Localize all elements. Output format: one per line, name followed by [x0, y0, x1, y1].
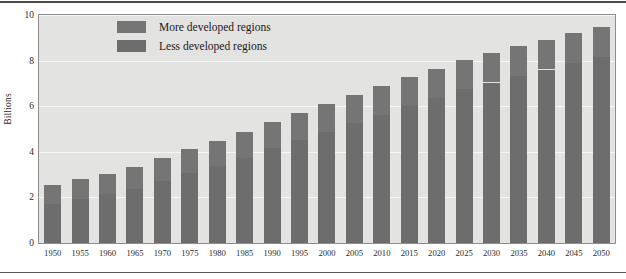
bar-segment-more-developed — [401, 77, 418, 106]
x-tick-label-1955: 1955 — [66, 248, 93, 259]
bar-segment-less-developed — [318, 132, 335, 243]
bar-segment-less-developed — [510, 76, 527, 243]
chart-figure: 0246810 Billions 19501955196019651970197… — [0, 0, 626, 279]
bar-segment-more-developed — [72, 179, 89, 199]
y-tick-label: 2 — [0, 193, 34, 202]
bar-segment-less-developed — [291, 140, 308, 243]
bar-2020 — [428, 69, 445, 243]
bar-segment-more-developed — [44, 185, 61, 203]
y-tick-label: 0 — [0, 239, 34, 248]
bar-segment-more-developed — [373, 86, 390, 114]
x-tick-label-2040: 2040 — [533, 248, 560, 259]
x-tick-label-2020: 2020 — [423, 248, 450, 259]
bar-segment-less-developed — [428, 98, 445, 243]
bar-2050 — [593, 27, 610, 243]
bar-segment-less-developed — [44, 204, 61, 243]
bar-1990 — [264, 122, 281, 243]
bar-segment-less-developed — [565, 63, 582, 243]
x-tick-label-2025: 2025 — [450, 248, 477, 259]
bar-segment-more-developed — [126, 167, 143, 189]
legend-item-less-developed: Less developed regions — [117, 37, 347, 54]
bar-segment-less-developed — [483, 83, 500, 244]
bar-1960 — [99, 174, 116, 243]
bar-segment-less-developed — [538, 70, 555, 244]
y-axis-title: Billions — [3, 79, 13, 139]
legend-item-label: More developed regions — [159, 21, 271, 33]
x-tick-label-2045: 2045 — [560, 248, 587, 259]
legend-swatch-icon — [117, 21, 146, 33]
y-tick-label: 10 — [0, 11, 34, 20]
bar-2015 — [401, 77, 418, 243]
bar-2010 — [373, 86, 390, 243]
x-tick-label-1980: 1980 — [204, 248, 231, 259]
legend-item-label: Less developed regions — [159, 40, 267, 52]
x-tick-label-2050: 2050 — [588, 248, 615, 259]
y-tick-label: 8 — [0, 56, 34, 65]
bar-segment-more-developed — [593, 27, 610, 57]
bar-segment-more-developed — [236, 132, 253, 157]
x-tick-label-2000: 2000 — [313, 248, 340, 259]
bar-segment-less-developed — [456, 89, 473, 243]
x-tick-label-1970: 1970 — [149, 248, 176, 259]
x-tick-label-1950: 1950 — [39, 248, 66, 259]
x-tick-label-2005: 2005 — [341, 248, 368, 259]
x-tick-label-1960: 1960 — [94, 248, 121, 259]
bar-segment-less-developed — [593, 57, 610, 243]
bar-segment-more-developed — [291, 113, 308, 140]
gridline — [39, 15, 615, 16]
bar-segment-more-developed — [456, 60, 473, 89]
bar-segment-less-developed — [99, 194, 116, 243]
bar-1980 — [209, 141, 226, 243]
bar-segment-less-developed — [373, 115, 390, 243]
bar-segment-less-developed — [346, 123, 363, 243]
bar-1970 — [154, 158, 171, 243]
gridline — [39, 61, 615, 62]
x-tick-label-1965: 1965 — [121, 248, 148, 259]
bar-2040 — [538, 40, 555, 243]
x-tick-label-2015: 2015 — [396, 248, 423, 259]
bottom-divider-rule — [0, 272, 626, 273]
bar-1975 — [181, 149, 198, 243]
bar-segment-more-developed — [346, 95, 363, 123]
y-tick-label: 4 — [0, 147, 34, 156]
bar-2045 — [565, 33, 582, 243]
bar-segment-more-developed — [154, 158, 171, 181]
bar-segment-more-developed — [264, 122, 281, 148]
x-axis: 1950195519601965197019751980198519901995… — [38, 248, 616, 262]
bar-segment-less-developed — [236, 158, 253, 244]
bar-segment-less-developed — [72, 199, 89, 243]
x-tick-label-1975: 1975 — [176, 248, 203, 259]
bar-segment-less-developed — [209, 166, 226, 243]
bar-segment-less-developed — [181, 173, 198, 243]
bar-segment-less-developed — [154, 181, 171, 243]
bar-segment-more-developed — [565, 33, 582, 63]
bar-2000 — [318, 104, 335, 243]
x-tick-label-1990: 1990 — [258, 248, 285, 259]
bar-2030 — [483, 53, 500, 243]
bar-1985 — [236, 132, 253, 243]
bar-segment-less-developed — [401, 106, 418, 243]
bar-segment-more-developed — [181, 149, 198, 173]
bar-2025 — [456, 60, 473, 243]
bar-segment-more-developed — [538, 40, 555, 70]
x-tick-label-1995: 1995 — [286, 248, 313, 259]
bar-segment-more-developed — [510, 46, 527, 76]
bar-1995 — [291, 113, 308, 243]
legend-swatch-icon — [117, 40, 146, 52]
bar-segment-less-developed — [264, 148, 281, 243]
x-tick-label-2030: 2030 — [478, 248, 505, 259]
legend-item-more-developed: More developed regions — [117, 18, 347, 35]
x-tick-label-1985: 1985 — [231, 248, 258, 259]
bar-1965 — [126, 167, 143, 243]
bar-segment-less-developed — [126, 189, 143, 243]
bar-segment-more-developed — [428, 69, 445, 98]
x-tick-label-2035: 2035 — [505, 248, 532, 259]
bar-segment-more-developed — [318, 104, 335, 131]
bar-segment-more-developed — [99, 174, 116, 195]
chart-legend: More developed regionsLess developed reg… — [117, 18, 347, 56]
bar-2035 — [510, 46, 527, 243]
bar-segment-more-developed — [483, 53, 500, 82]
bar-1950 — [44, 185, 61, 243]
bar-1955 — [72, 179, 89, 243]
bar-segment-more-developed — [209, 141, 226, 166]
